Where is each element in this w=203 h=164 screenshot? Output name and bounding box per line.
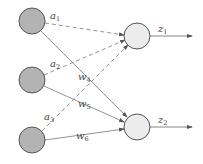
label-w6: w6 — [76, 130, 89, 143]
output-node-1 — [124, 23, 150, 49]
output-node-2 — [124, 114, 150, 140]
input-node-3 — [19, 127, 45, 153]
edge-x1-z1 — [45, 23, 124, 35]
label-w5: w5 — [78, 98, 91, 111]
label-z2: z2 — [157, 114, 167, 127]
label-w4: w4 — [78, 71, 91, 84]
label-z1: z1 — [157, 23, 167, 36]
label-a3: a3 — [44, 111, 54, 124]
label-a2: a2 — [50, 58, 60, 71]
label-a1: a1 — [50, 10, 60, 23]
neural-network-diagram: a1 a2 a3 w4 w5 w6 z1 z2 — [0, 0, 203, 164]
input-node-1 — [19, 8, 45, 34]
input-node-2 — [19, 67, 45, 93]
